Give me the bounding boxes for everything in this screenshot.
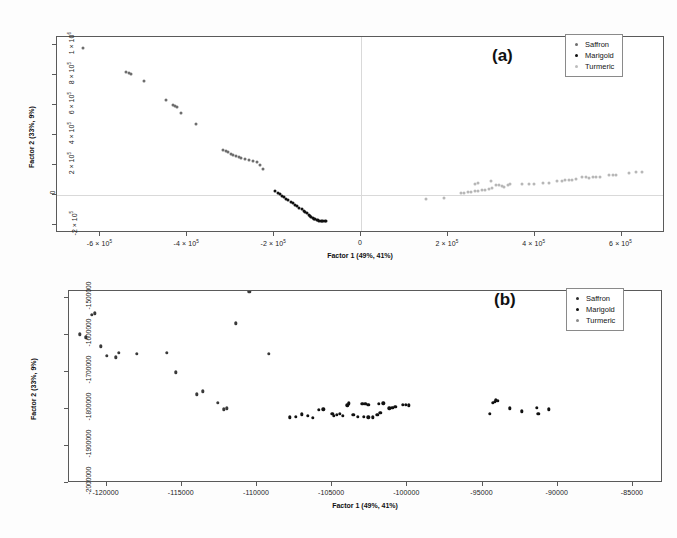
- data-point-marigold: [341, 414, 344, 417]
- y-tick-mark: [64, 334, 68, 335]
- data-point-marigold: [371, 416, 374, 419]
- y-tick-mark: [52, 164, 56, 165]
- panel-a-y-axis-title: Factor 2 (33%, 9%): [28, 106, 35, 168]
- data-point-turmeric: [641, 170, 644, 173]
- data-point-turmeric: [135, 352, 138, 355]
- turmeric-marker-icon: [572, 319, 582, 322]
- data-point-turmeric: [114, 356, 117, 359]
- x-tick-mark: [186, 232, 187, 236]
- data-point-turmeric: [105, 354, 108, 357]
- legend-b-label: Saffron: [586, 294, 610, 303]
- data-point-turmeric: [216, 401, 219, 404]
- y-tick-mark: [52, 134, 56, 135]
- x-tick-mark: [621, 232, 622, 236]
- legend-a-label: Turmeric: [585, 62, 614, 71]
- y-tick-label: 8 × 105: [67, 62, 75, 84]
- x-tick-mark: [181, 482, 182, 486]
- x-tick-mark: [99, 232, 100, 236]
- y-tick-mark: [64, 408, 68, 409]
- data-point-marigold: [321, 407, 324, 410]
- y-tick-mark: [52, 74, 56, 75]
- data-point-turmeric: [490, 180, 493, 183]
- x-tick-mark: [106, 482, 107, 486]
- y-tick-mark: [64, 482, 68, 483]
- data-point-marigold: [496, 399, 499, 402]
- panel-a-zero-vline: [361, 37, 362, 231]
- data-point-turmeric: [542, 181, 545, 184]
- legend-a-item-saffron[interactable]: Saffron: [571, 39, 614, 50]
- data-point-turmeric: [248, 290, 251, 293]
- legend-a-item-turmeric[interactable]: Turmeric: [571, 61, 614, 72]
- x-tick-mark: [632, 482, 633, 486]
- data-point-marigold: [324, 219, 327, 222]
- data-point-marigold: [547, 407, 550, 410]
- data-point-marigold: [300, 413, 303, 416]
- saffron-marker-icon: [572, 297, 582, 300]
- panel-b-x-axis-title: Factor 1 (49%, 41%): [332, 502, 398, 509]
- y-tick-label: 0: [49, 191, 56, 195]
- x-tick-label: -6 × 105: [87, 239, 112, 247]
- data-point-turmeric: [225, 407, 228, 410]
- data-point-turmeric: [174, 371, 177, 374]
- y-tick-mark: [64, 297, 68, 298]
- data-point-turmeric: [165, 351, 168, 354]
- data-point-turmeric: [78, 332, 81, 335]
- x-tick-mark: [482, 482, 483, 486]
- x-tick-label: -105000: [318, 489, 344, 496]
- data-point-turmeric: [527, 182, 530, 185]
- data-point-turmeric: [491, 187, 494, 190]
- y-tick-label: -1800000: [85, 393, 92, 421]
- marigold-marker-icon: [571, 54, 581, 57]
- y-tick-label: -1500000: [85, 282, 92, 310]
- legend-b-label: Marigold: [586, 305, 615, 314]
- panel-b-y-axis-title: Factor 2 (33%, 9%): [30, 358, 37, 420]
- y-tick-label: 6 × 105: [67, 92, 75, 114]
- data-point-turmeric: [509, 183, 512, 186]
- legend-a-label: Marigold: [585, 51, 614, 60]
- data-point-turmeric: [635, 171, 638, 174]
- x-tick-mark: [256, 482, 257, 486]
- data-point-turmeric: [615, 173, 618, 176]
- data-point-saffron: [243, 157, 246, 160]
- panel-a-zero-hline: [57, 195, 663, 196]
- data-point-marigold: [407, 404, 410, 407]
- legend-b-item-turmeric[interactable]: Turmeric: [572, 315, 615, 326]
- data-point-turmeric: [442, 196, 445, 199]
- turmeric-marker-icon: [571, 65, 581, 68]
- y-tick-mark: [64, 371, 68, 372]
- data-point-saffron: [164, 99, 167, 102]
- data-point-saffron: [259, 164, 262, 167]
- legend-b-item-marigold[interactable]: Marigold: [572, 304, 615, 315]
- panel-a: -6 × 105-4 × 105-2 × 10502 × 1054 × 1056…: [0, 0, 677, 270]
- data-point-turmeric: [425, 197, 428, 200]
- data-point-turmeric: [234, 322, 237, 325]
- data-point-marigold: [379, 411, 382, 414]
- x-tick-label: -2 × 105: [260, 239, 285, 247]
- data-point-turmeric: [117, 351, 120, 354]
- x-tick-label: -100000: [393, 489, 419, 496]
- data-point-saffron: [142, 79, 145, 82]
- data-point-marigold: [311, 416, 314, 419]
- data-point-turmeric: [520, 183, 523, 186]
- panel-a-legend: SaffronMarigoldTurmeric: [565, 34, 623, 77]
- legend-a-label: Saffron: [585, 40, 609, 49]
- x-tick-mark: [273, 232, 274, 236]
- x-tick-mark: [406, 482, 407, 486]
- data-point-marigold: [491, 401, 494, 404]
- y-tick-label: -2 × 105: [69, 211, 77, 236]
- data-point-marigold: [306, 414, 309, 417]
- legend-a-item-marigold[interactable]: Marigold: [571, 50, 614, 61]
- data-point-turmeric: [93, 311, 96, 314]
- data-point-marigold: [508, 407, 511, 410]
- data-point-saffron: [175, 106, 178, 109]
- data-point-saffron: [255, 160, 258, 163]
- data-point-marigold: [347, 402, 350, 405]
- y-tick-mark: [52, 104, 56, 105]
- legend-b-item-saffron[interactable]: Saffron: [572, 293, 615, 304]
- data-point-marigold: [394, 405, 397, 408]
- y-tick-label: 4 × 105: [67, 122, 75, 144]
- y-tick-label: 2 × 105: [67, 152, 75, 174]
- y-tick-label: -1700000: [85, 356, 92, 384]
- data-point-turmeric: [201, 390, 204, 393]
- data-point-marigold: [317, 408, 320, 411]
